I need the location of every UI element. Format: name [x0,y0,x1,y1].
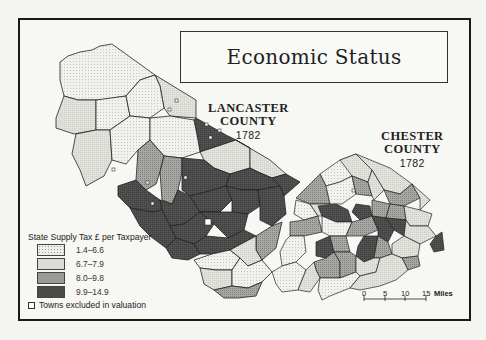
map-title: Economic Status [226,45,401,69]
scale-tick: 15 [422,289,430,298]
county-name-line2: COUNTY [384,142,441,156]
scale-tick: 5 [383,289,387,298]
legend-label: 6.7–7.9 [76,259,104,269]
town-marker [352,189,355,192]
town-marker [146,181,149,184]
county-name-line2: COUNTY [220,114,277,128]
legend-item: 1.4–6.6 [37,244,151,256]
town-marker [168,108,171,111]
legend-label: 8.0–9.8 [76,273,104,283]
square-marker-icon [28,302,35,309]
legend-note-text: Towns excluded in valuation [39,300,146,310]
township[interactable] [386,204,406,220]
scale-tick: 10 [401,289,409,298]
legend-swatch-2 [37,258,65,270]
legend-swatch-1 [37,244,65,256]
legend-swatch-4 [37,286,65,298]
town-marker [184,176,187,179]
chester-county [272,154,444,300]
legend-swatch-3 [37,272,65,284]
legend-label: 9.9–14.9 [76,287,109,297]
legend: State Supply Tax £ per Taxpayer 1.4–6.6 … [28,232,151,310]
county-year: 1782 [208,129,289,142]
chester-county-label: CHESTER COUNTY 1782 [381,130,444,170]
township[interactable] [280,236,306,266]
township[interactable] [258,186,286,226]
scale-tick: 0 [362,289,366,298]
town-marker [112,168,115,171]
scale-bar [364,295,426,301]
township[interactable] [56,96,96,134]
legend-item: 9.9–14.9 [37,286,151,298]
township[interactable] [256,222,282,260]
county-name-line1: LANCASTER [208,101,289,115]
county-year: 1782 [381,157,444,170]
town-marker-large [205,219,211,225]
scale-unit: Miles [434,289,453,298]
county-name-line1: CHESTER [381,129,444,143]
legend-label: 1.4–6.6 [76,245,104,255]
town-marker [175,99,178,102]
legend-note: Towns excluded in valuation [28,300,151,310]
township[interactable] [72,130,112,186]
map-title-box: Economic Status [180,31,448,83]
town-markers-chester [352,189,355,192]
legend-title: State Supply Tax £ per Taxpayer [28,232,151,242]
legend-item: 8.0–9.8 [37,272,151,284]
town-marker [151,202,154,205]
lancaster-county-label: LANCASTER COUNTY 1782 [208,102,289,142]
legend-item: 6.7–7.9 [37,258,151,270]
